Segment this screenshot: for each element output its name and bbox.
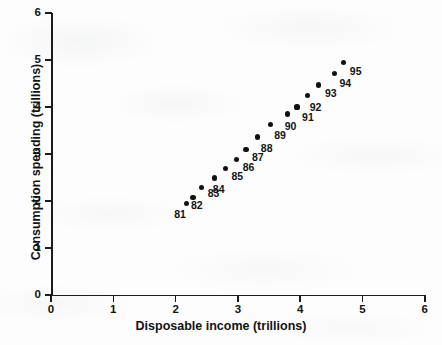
data-point-87 (243, 147, 248, 152)
data-point-84 (212, 175, 217, 180)
data-point-85 (223, 166, 228, 171)
point-label-84: 84 (213, 183, 225, 195)
data-point-92 (305, 93, 310, 98)
plot-area: 818283848586878889909192939495 (0, 0, 442, 345)
data-point-88 (255, 134, 260, 139)
data-point-95 (341, 60, 346, 65)
data-point-90 (285, 111, 290, 116)
data-point-89 (268, 122, 273, 127)
point-label-85: 85 (231, 170, 243, 182)
point-label-92: 92 (310, 101, 322, 113)
y-axis-title: Consumption spending (trillions) (29, 47, 43, 277)
point-label-94: 94 (339, 77, 351, 89)
point-label-95: 95 (350, 65, 362, 77)
data-point-91 (294, 104, 299, 109)
data-point-81 (184, 201, 189, 206)
point-label-82: 82 (191, 199, 203, 211)
point-label-93: 93 (325, 87, 337, 99)
point-label-81: 81 (174, 208, 186, 220)
point-label-90: 90 (285, 120, 297, 132)
x-axis-title: Disposable income (trillions) (0, 319, 442, 333)
data-point-94 (332, 71, 337, 76)
point-label-88: 88 (261, 142, 273, 154)
point-label-86: 86 (243, 161, 255, 173)
data-point-86 (234, 157, 239, 162)
scatter-plot-figure: 0123456 0123456 818283848586878889909192… (0, 0, 442, 345)
data-point-83 (199, 185, 204, 190)
data-point-93 (316, 82, 321, 87)
